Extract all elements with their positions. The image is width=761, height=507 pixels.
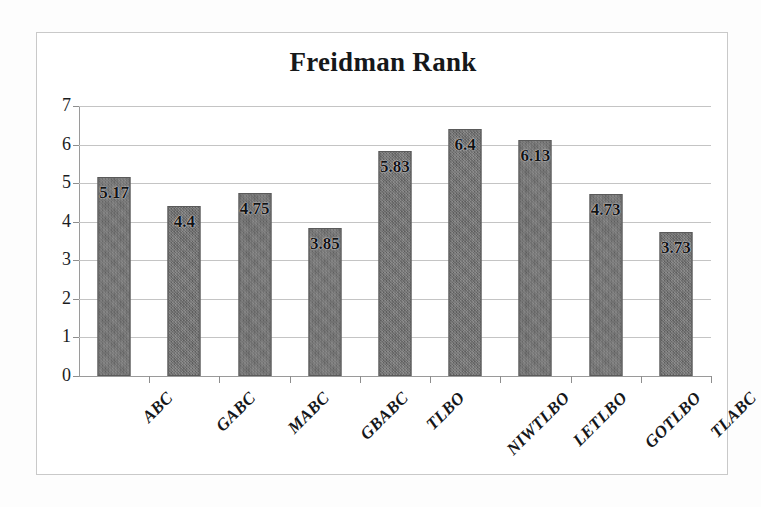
plot-area: 5.174.44.753.855.836.46.134.733.73 — [79, 106, 711, 376]
bar-slot: 6.4 — [430, 106, 500, 376]
y-axis-label: 2 — [45, 289, 71, 307]
x-axis-category-label: GABC — [212, 388, 260, 436]
gridline — [79, 376, 711, 377]
bar[interactable] — [98, 177, 131, 376]
x-axis-category-label: TLBO — [422, 388, 469, 435]
x-axis-tick — [641, 376, 642, 383]
bar-value-label: 4.73 — [591, 200, 621, 220]
bar-value-label: 3.85 — [310, 234, 340, 254]
bar-slot: 4.75 — [219, 106, 289, 376]
x-axis-category-label: GBABC — [356, 388, 412, 444]
y-axis-label: 1 — [45, 327, 71, 345]
x-axis-tick — [430, 376, 431, 383]
bar[interactable] — [519, 140, 552, 376]
bar-slot: 5.83 — [360, 106, 430, 376]
y-axis-label: 7 — [45, 96, 71, 114]
y-axis-label: 4 — [45, 212, 71, 230]
bar[interactable] — [378, 151, 411, 376]
x-axis-category-label: LETLBO — [570, 388, 633, 451]
x-axis-tick — [149, 376, 150, 383]
bar-slot: 3.85 — [290, 106, 360, 376]
bar-value-label: 4.4 — [174, 212, 195, 232]
chart-frame: Freidman Rank 76543210 5.174.44.753.855.… — [36, 32, 728, 475]
y-axis-label: 5 — [45, 173, 71, 191]
bar[interactable] — [589, 194, 622, 376]
x-axis-tick — [500, 376, 501, 383]
bar-slot: 4.73 — [571, 106, 641, 376]
y-axis-label: 3 — [45, 250, 71, 268]
x-axis-category-label: GOTLBO — [641, 388, 706, 453]
x-axis-tick — [571, 376, 572, 383]
bar-value-label: 6.13 — [521, 146, 551, 166]
y-axis-label: 6 — [45, 135, 71, 153]
bar-slot: 5.17 — [79, 106, 149, 376]
bar-value-label: 5.17 — [99, 183, 129, 203]
x-axis-tick — [711, 376, 712, 383]
bar-value-label: 5.83 — [380, 157, 410, 177]
bar-slot: 6.13 — [500, 106, 570, 376]
bar-value-label: 4.75 — [240, 199, 270, 219]
x-axis-category-label: MABC — [283, 388, 333, 438]
x-axis-category-label: NIWTLBO — [503, 388, 575, 460]
x-axis-category-label: ABC — [138, 388, 177, 427]
bar-value-label: 6.4 — [455, 135, 476, 155]
x-axis-tick — [360, 376, 361, 383]
bar[interactable] — [238, 193, 271, 376]
chart-title: Freidman Rank — [37, 47, 729, 78]
bar[interactable] — [449, 129, 482, 376]
x-axis-tick — [290, 376, 291, 383]
y-axis-label: 0 — [45, 366, 71, 384]
x-axis-category-label: TLABC — [707, 388, 761, 442]
bar-value-label: 3.73 — [661, 238, 691, 258]
bar-slot: 3.73 — [641, 106, 711, 376]
x-axis-tick — [219, 376, 220, 383]
bar-slot: 4.4 — [149, 106, 219, 376]
